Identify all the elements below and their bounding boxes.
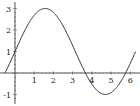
x-tick-label: 6 xyxy=(128,76,133,85)
y-tick-label: 2 xyxy=(6,26,11,35)
line-chart: 123456-1123 xyxy=(0,0,140,106)
x-tick-label: 5 xyxy=(108,76,113,85)
y-tick-label: 3 xyxy=(6,5,11,14)
tick-labels: 123456-1123 xyxy=(3,5,133,100)
axis-ticks xyxy=(13,9,134,99)
x-tick-label: 2 xyxy=(51,76,56,85)
x-tick-label: 1 xyxy=(32,76,37,85)
x-tick-label: 3 xyxy=(70,76,75,85)
y-tick-label: 1 xyxy=(6,48,11,57)
y-tick-label: -1 xyxy=(3,91,11,100)
axes xyxy=(0,2,140,104)
